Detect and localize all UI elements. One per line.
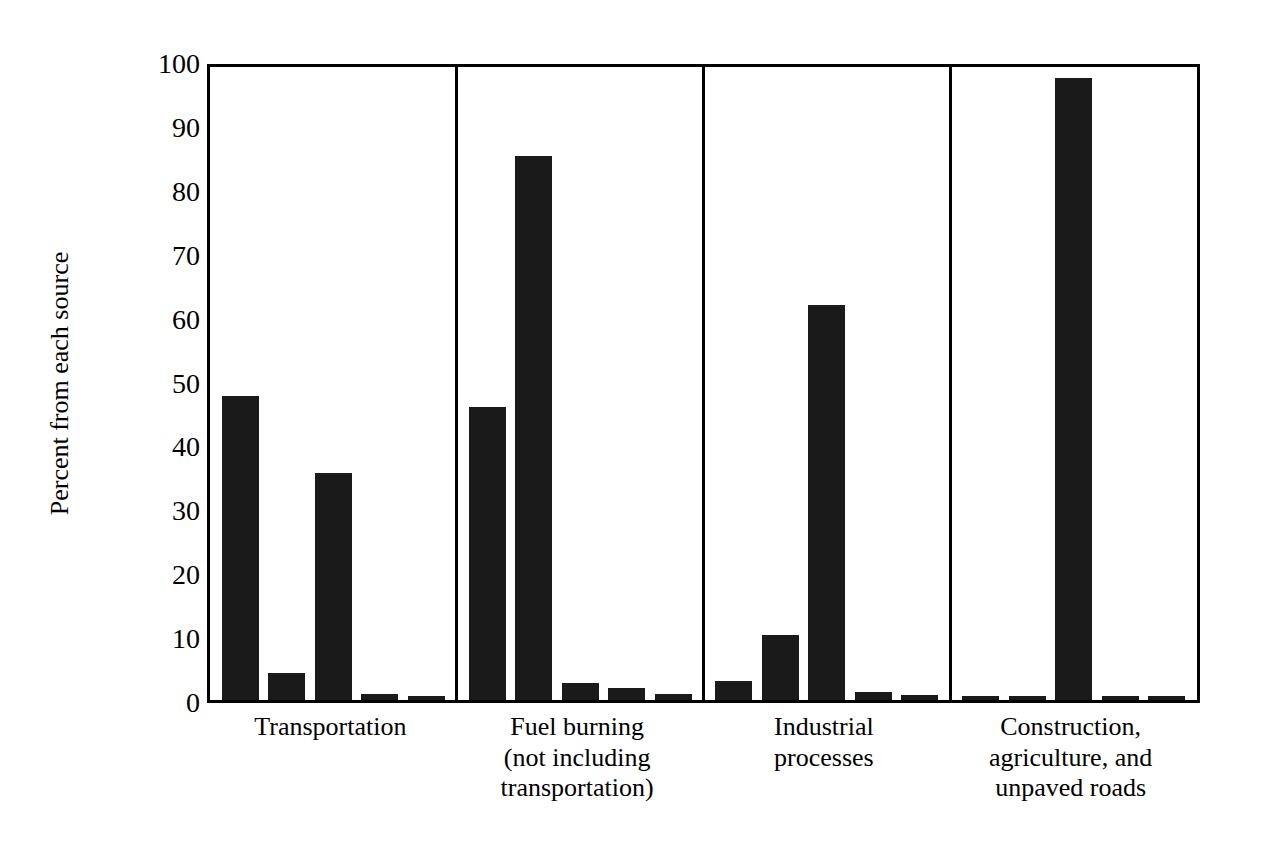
x-category-label: Construction,agriculture, andunpaved roa… <box>947 712 1194 804</box>
bar <box>808 305 845 700</box>
group-separator <box>455 67 458 700</box>
group-separator <box>702 67 705 700</box>
bar <box>268 673 305 700</box>
bar-chart-figure: Percent from each source 010203040506070… <box>0 0 1263 855</box>
bar <box>469 407 506 700</box>
x-category-label-line: processes <box>701 743 948 774</box>
x-category-label: Industrialprocesses <box>701 712 948 773</box>
y-tick-label: 90 <box>120 114 200 142</box>
y-axis-tick-labels: 0102030405060708090100 <box>120 64 200 703</box>
plot-inner <box>210 67 1197 700</box>
bar <box>361 694 398 700</box>
bar <box>222 396 259 700</box>
bar <box>515 156 552 700</box>
x-category-label-line: transportation) <box>454 773 701 804</box>
bar <box>408 696 445 700</box>
x-category-label: Fuel burning(not includingtransportation… <box>454 712 701 804</box>
bar <box>1102 696 1139 700</box>
y-tick-label: 60 <box>120 306 200 334</box>
bar <box>1009 696 1046 700</box>
y-tick-label: 10 <box>120 625 200 653</box>
x-category-label-line: Transportation <box>207 712 454 743</box>
x-category-label-line: (not including <box>454 743 701 774</box>
bar <box>762 635 799 700</box>
bar <box>562 683 599 700</box>
x-category-label: Transportation <box>207 712 454 743</box>
y-tick-label: 20 <box>120 561 200 589</box>
bar <box>901 695 938 700</box>
x-axis-category-labels: TransportationFuel burning(not including… <box>207 712 1200 852</box>
x-category-label-line: unpaved roads <box>947 773 1194 804</box>
x-category-label-line: Construction, <box>947 712 1194 743</box>
y-tick-label: 100 <box>120 50 200 78</box>
y-tick-label: 80 <box>120 178 200 206</box>
bar <box>315 473 352 700</box>
plot-area <box>207 64 1200 703</box>
y-axis-title: Percent from each source <box>40 64 80 703</box>
bar <box>1055 78 1092 700</box>
bar <box>715 681 752 700</box>
bar <box>608 688 645 700</box>
x-category-label-line: agriculture, and <box>947 743 1194 774</box>
bar <box>962 696 999 700</box>
y-tick-label: 70 <box>120 242 200 270</box>
group-separator <box>949 67 952 700</box>
x-category-label-line: Industrial <box>701 712 948 743</box>
bar <box>1148 696 1185 700</box>
bar <box>655 694 692 700</box>
bar <box>855 692 892 700</box>
y-tick-label: 40 <box>120 433 200 461</box>
y-tick-label: 50 <box>120 370 200 398</box>
x-category-label-line: Fuel burning <box>454 712 701 743</box>
y-tick-label: 30 <box>120 497 200 525</box>
y-tick-label: 0 <box>120 689 200 717</box>
